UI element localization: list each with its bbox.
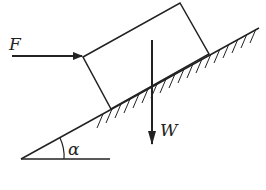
force-f-label: F	[8, 34, 22, 54]
ground-hatching	[97, 29, 256, 128]
weight-w-label: W	[160, 120, 179, 140]
angle-arc	[60, 138, 64, 159]
incline-diagram: α F W	[0, 0, 266, 190]
angle-label: α	[68, 139, 80, 159]
